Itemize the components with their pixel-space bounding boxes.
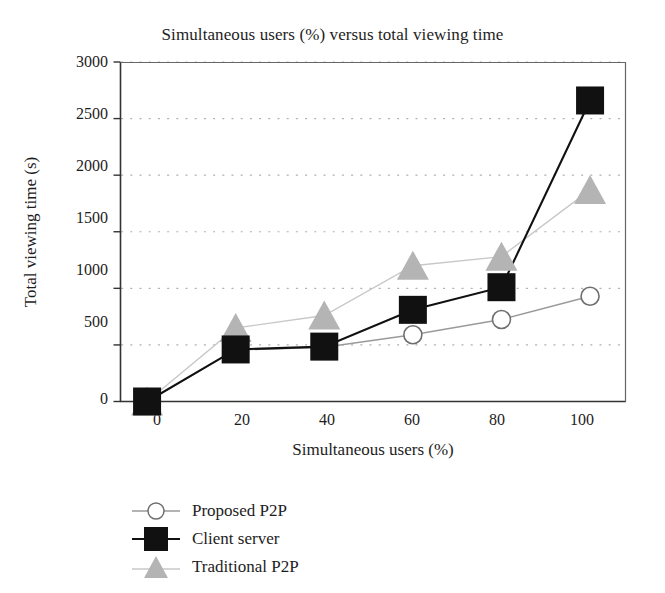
y-tick-marks [114, 62, 121, 402]
gridlines [122, 62, 625, 345]
legend-label-proposed-p2p: Proposed P2P [182, 501, 287, 521]
legend: Proposed P2P Client server Traditional P… [130, 497, 460, 581]
legend-item-client-server: Client server [130, 525, 460, 553]
series-markers [131, 86, 606, 415]
chart-figure: Simultaneous users (%) versus total view… [0, 0, 665, 593]
legend-key-filled-triangle-icon [130, 554, 182, 580]
legend-label-traditional-p2p: Traditional P2P [182, 557, 299, 577]
legend-item-proposed-p2p: Proposed P2P [130, 497, 460, 525]
legend-label-client-server: Client server [182, 529, 279, 549]
legend-key-filled-square-icon [130, 526, 182, 552]
legend-key-open-circle-icon [130, 498, 182, 524]
series-lines [147, 100, 590, 401]
legend-item-traditional-p2p: Traditional P2P [130, 553, 460, 581]
